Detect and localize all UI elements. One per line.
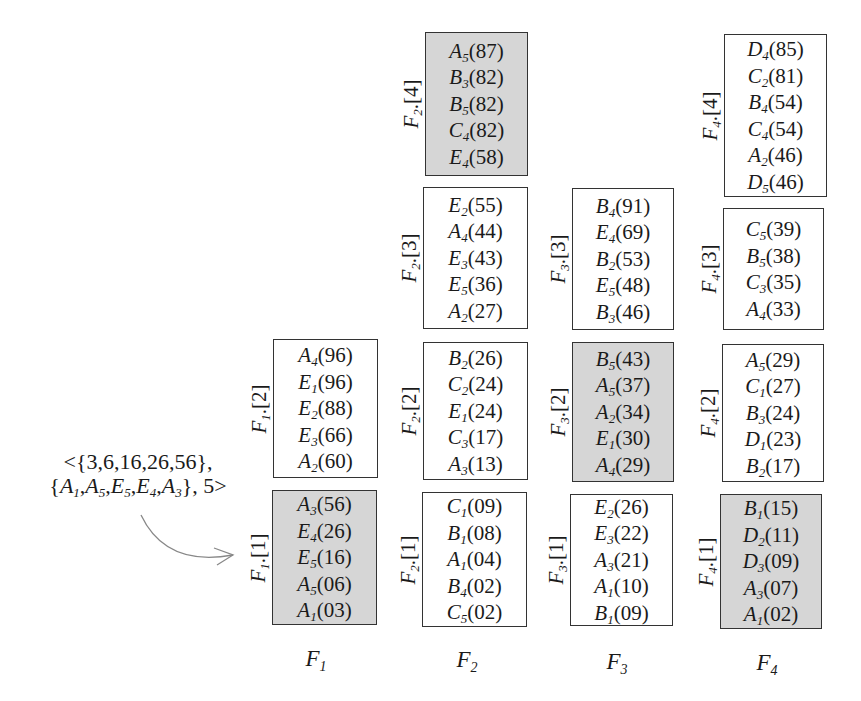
bucket-f2-3: E2(55)A4(44)E3(43)E5(36)A2(27) (423, 187, 528, 329)
bucket-label: F3.[3] (546, 234, 571, 283)
bucket-entry: C4(54) (748, 116, 804, 143)
bucket-entry: C2(24) (448, 371, 504, 398)
bucket-entry: B3(24) (746, 400, 800, 427)
bucket-entry: E2(55) (448, 192, 502, 219)
bucket-label: F4.[2] (696, 388, 721, 437)
bucket-f3-3: B4(91)E4(69)B2(53)E5(48)B3(46) (572, 188, 674, 330)
bucket-entry: B1(09) (594, 600, 648, 627)
bucket-entry: E2(88) (298, 395, 352, 422)
bucket-entry: A2(27) (448, 298, 502, 325)
bucket-entry: B5(38) (746, 243, 800, 270)
bucket-entry: B3(46) (596, 299, 650, 326)
bucket-entry: B5(82) (449, 91, 503, 118)
bucket-f3-2: B5(43)A5(37)A2(34)E1(30)A4(29) (572, 342, 674, 482)
bucket-f4-1: B1(15)D2(11)D3(09)A3(07)A1(02) (720, 494, 822, 629)
bucket-entry: D3(09) (743, 548, 800, 575)
bucket-entry: D4(85) (747, 36, 804, 63)
bucket-entry: C1(27) (745, 373, 801, 400)
bucket-entry: A3(56) (297, 491, 351, 518)
bucket-entry: A4(44) (448, 218, 502, 245)
bucket-entry: A4(96) (298, 342, 352, 369)
bucket-entry: C4(82) (449, 117, 505, 144)
bucket-entry: A3(13) (448, 451, 502, 478)
bucket-entry: A1(04) (447, 546, 501, 573)
bucket-entry: A5(87) (449, 38, 503, 65)
bucket-entry: E2(26) (594, 494, 648, 521)
bucket-entry: A1(02) (744, 601, 798, 628)
bucket-entry: E3(66) (298, 422, 352, 449)
bucket-entry: C2(81) (748, 63, 804, 90)
bucket-f4-2: A5(29)C1(27)B3(24)D1(23)B2(17) (722, 344, 824, 482)
bucket-entry: B1(08) (447, 520, 501, 547)
bucket-entry: A5(29) (746, 347, 800, 374)
bucket-entry: E3(22) (594, 520, 648, 547)
bucket-entry: E4(69) (596, 219, 650, 246)
bucket-entry: B2(17) (746, 453, 800, 480)
column-label-f4: F4 (756, 650, 777, 676)
bucket-entry: E5(36) (448, 271, 502, 298)
bucket-f2-1: C1(09)B1(08)A1(04)B4(02)C5(02) (422, 492, 527, 627)
bucket-entry: A1(10) (594, 573, 648, 600)
bucket-entry: A2(34) (596, 399, 650, 426)
bucket-f4-3: C5(39)B5(38)C3(35)A4(33) (723, 208, 824, 330)
bucket-entry: A5(06) (297, 571, 351, 598)
bucket-f1-1: A3(56)E4(26)E5(16)A5(06)A1(03) (272, 490, 377, 625)
bucket-entry: B5(43) (596, 346, 650, 373)
bucket-entry: A3(07) (744, 575, 798, 602)
bucket-entry: A4(33) (746, 296, 800, 323)
bucket-label: F1.[2] (247, 384, 272, 433)
bucket-label: F2.[2] (397, 386, 422, 435)
bucket-entry: B2(26) (448, 345, 502, 372)
bucket-entry: E1(30) (596, 425, 650, 452)
bucket-entry: D1(23) (745, 426, 802, 453)
bucket-entry: E1(24) (448, 398, 502, 425)
bucket-label: F1.[1] (246, 533, 271, 582)
bucket-entry: E4(58) (449, 144, 503, 171)
column-label-f1: F1 (305, 646, 326, 672)
bucket-f2-4: A5(87)B3(82)B5(82)C4(82)E4(58) (425, 32, 528, 176)
bucket-entry: C3(35) (746, 269, 802, 296)
bucket-label: F4.[3] (697, 244, 722, 293)
bucket-entry: C5(02) (447, 599, 503, 626)
bucket-label: F3.[1] (544, 535, 569, 584)
bucket-f1-2: A4(96)E1(96)E2(88)E3(66)A2(60) (273, 339, 378, 478)
bucket-entry: B2(53) (596, 246, 650, 273)
bucket-entry: E3(43) (448, 245, 502, 272)
bucket-entry: A4(29) (596, 452, 650, 479)
bucket-entry: B4(02) (447, 573, 501, 600)
bucket-entry: D2(11) (743, 522, 799, 549)
bucket-entry: E5(16) (297, 544, 351, 571)
bucket-label: F2.[4] (399, 79, 424, 128)
bucket-entry: B3(82) (449, 64, 503, 91)
column-label-f2: F2 (456, 647, 477, 673)
bucket-entry: A2(46) (748, 142, 802, 169)
bucket-entry: A3(21) (594, 547, 648, 574)
bucket-label: F2.[3] (397, 233, 422, 282)
bucket-label: F4.[4] (698, 91, 723, 140)
bucket-entry: C3(17) (448, 424, 504, 451)
bucket-entry: A2(60) (298, 448, 352, 475)
bucket-f4-4: D4(85)C2(81)B4(54)C4(54)A2(46)D5(46) (724, 34, 827, 197)
bucket-entry: E4(26) (297, 518, 351, 545)
bucket-f2-2: B2(26)C2(24)E1(24)C3(17)A3(13) (423, 342, 528, 480)
bucket-entry: A5(37) (596, 372, 650, 399)
bucket-label: F4.[1] (694, 537, 719, 586)
bucket-entry: E5(48) (596, 272, 650, 299)
bucket-entry: C5(39) (746, 216, 802, 243)
bucket-label: F3.[2] (546, 387, 571, 436)
bucket-entry: A1(03) (297, 597, 351, 624)
bucket-label: F2.[1] (396, 535, 421, 584)
bucket-entry: C1(09) (447, 493, 503, 520)
bucket-entry: D5(46) (747, 169, 804, 196)
bucket-entry: E1(96) (298, 369, 352, 396)
column-label-f3: F3 (606, 649, 627, 675)
bucket-f3-1: E2(26)E3(22)A3(21)A1(10)B1(09) (570, 494, 673, 626)
bucket-entry: B1(15) (744, 495, 798, 522)
bucket-entry: B4(54) (748, 89, 802, 116)
bucket-entry: B4(91) (596, 193, 650, 220)
